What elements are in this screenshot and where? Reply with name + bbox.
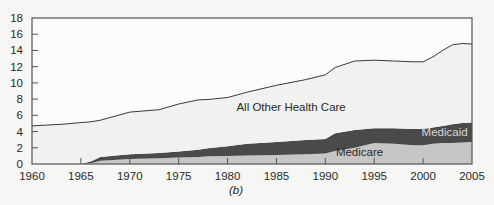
x-tick-label: 1985 bbox=[264, 170, 290, 182]
y-tick-label: 4 bbox=[17, 126, 24, 138]
x-tick-label: 1970 bbox=[117, 170, 143, 182]
x-tick-label: 1965 bbox=[68, 170, 94, 182]
label-all-other-health-care: All Other Health Care bbox=[236, 101, 345, 113]
y-tick-label: 12 bbox=[10, 61, 23, 73]
label-medicaid: Medicaid bbox=[422, 126, 468, 138]
x-tick-label: 2000 bbox=[410, 170, 436, 182]
x-tick-label: 1995 bbox=[361, 170, 387, 182]
y-tick-label: 8 bbox=[17, 93, 23, 105]
y-tick-label: 10 bbox=[10, 77, 23, 89]
y-tick-label: 18 bbox=[10, 12, 23, 24]
figure-caption: (b) bbox=[229, 184, 243, 196]
x-tick-label: 2005 bbox=[459, 170, 485, 182]
y-tick-label: 6 bbox=[17, 109, 23, 121]
y-tick-label: 14 bbox=[10, 44, 23, 56]
label-medicare: Medicare bbox=[336, 146, 383, 158]
x-tick-label: 1980 bbox=[215, 170, 241, 182]
y-tick-label: 16 bbox=[10, 28, 23, 40]
x-tick-label: 1960 bbox=[19, 170, 45, 182]
y-tick-label: 0 bbox=[17, 158, 23, 170]
x-tick-label: 1975 bbox=[166, 170, 192, 182]
y-tick-label: 2 bbox=[17, 142, 23, 154]
x-tick-label: 1990 bbox=[313, 170, 339, 182]
stacked-area-chart: 024681012141618 196019651970197519801985… bbox=[0, 0, 494, 205]
